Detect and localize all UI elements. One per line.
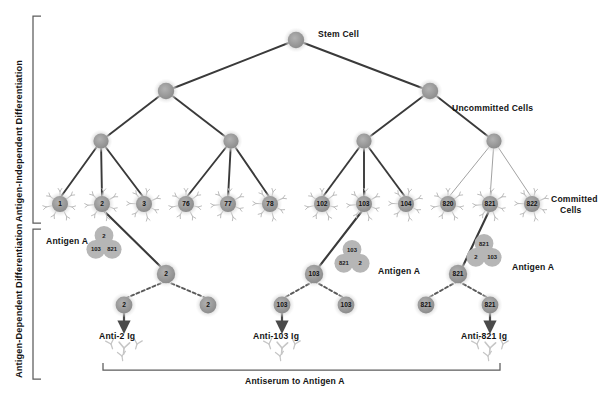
side-label-antigen-independent: Antigen-Independent Differentiation [14,60,24,222]
figure-canvas: 123767778102103104820821822 210382110382… [0,0,616,402]
label-anti-821-ig: Anti-821 Ig [461,331,507,341]
label-stem-cell: Stem Cell [318,29,359,39]
label-layer: Antigen-Independent Differentiation Anti… [0,0,616,402]
label-committed-cells-line1: Committed [551,194,598,204]
label-antigen-a-left: Antigen A [46,236,88,246]
label-antiserum: Antiserum to Antigen A [245,376,345,386]
label-anti-2-ig: Anti-2 Ig [99,331,135,341]
label-antigen-a-right: Antigen A [512,262,554,272]
label-committed-cells-line2: Cells [560,205,582,215]
label-uncommitted-cells: Uncommitted Cells [452,103,533,113]
label-antigen-a-mid: Antigen A [378,266,420,276]
label-anti-103-ig: Anti-103 Ig [253,331,299,341]
side-label-antigen-dependent: Antigen-Dependent Differentiation [14,223,24,378]
